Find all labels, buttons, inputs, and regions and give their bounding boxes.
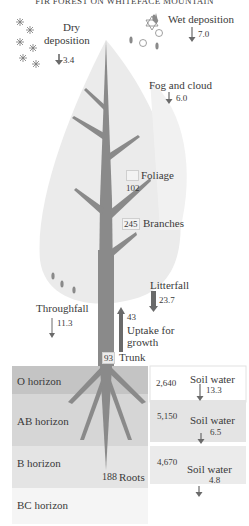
branches-label: Branches xyxy=(143,217,184,229)
o-horizon-label: O horizon xyxy=(17,375,61,387)
foliage-value: 102 xyxy=(126,183,140,193)
uptake-label-1: Uptake for xyxy=(127,324,174,336)
uptake-value: 43 xyxy=(127,312,136,322)
bc-horizon-label: BC horizon xyxy=(17,499,68,511)
wet-deposition-label: Wet deposition xyxy=(168,13,234,25)
dry-deposition-arrow-icon xyxy=(55,54,63,65)
o-horizon-water-label: Soil water xyxy=(190,373,235,385)
ab-horizon-water-label: Soil water xyxy=(190,414,235,426)
fog-cloud-label: Fog and cloud xyxy=(149,79,212,91)
dry-deposition-label-2: deposition xyxy=(44,34,90,46)
b-horizon-label: B horizon xyxy=(17,457,61,469)
trunk-value: 93 xyxy=(102,352,115,364)
ab-horizon-water-value: 6.5 xyxy=(210,427,221,437)
o-horizon-pool: 2,640 xyxy=(156,378,176,388)
b-horizon-pool: 4,670 xyxy=(157,457,177,467)
b-horizon-water-value: 4.8 xyxy=(209,475,220,485)
foliage-marker xyxy=(126,170,139,181)
foliage-label: Foliage xyxy=(141,169,174,181)
litterfall-label: Litterfall xyxy=(150,279,189,291)
trunk-label: Trunk xyxy=(119,351,146,363)
ab-horizon-label: AB horizon xyxy=(17,415,69,427)
roots-label: Roots xyxy=(119,471,145,483)
roots-value: 188 xyxy=(102,472,117,482)
ab-horizon-pool: 5,150 xyxy=(157,411,177,421)
dry-deposition-particles-icon xyxy=(16,18,40,68)
throughfall-value: 11.3 xyxy=(57,318,72,328)
o-horizon-water-value: 13.3 xyxy=(206,385,222,395)
diagram-title: FIR FOREST ON WHITEFACE MOUNTAIN xyxy=(0,0,249,6)
dry-deposition-value: 3.4 xyxy=(63,55,74,65)
branches-value: 245 xyxy=(122,218,140,230)
uptake-label-2: growth xyxy=(127,336,158,348)
dry-deposition-label-1: Dry xyxy=(63,21,80,33)
fog-cloud-value: 6.0 xyxy=(176,93,187,103)
wet-deposition-value: 7.0 xyxy=(198,29,209,39)
litterfall-value: 23.7 xyxy=(159,295,175,305)
b-horizon-water-label: Soil water xyxy=(187,463,232,475)
litterfall-arrow-icon xyxy=(149,291,158,312)
soil-water-b-arrow-icon xyxy=(196,486,203,497)
wet-deposition-arrow-icon xyxy=(189,27,196,42)
throughfall-label: Throughfall xyxy=(36,302,89,314)
wet-deposition-precip-icon xyxy=(129,13,162,50)
throughfall-arrow-icon xyxy=(49,318,55,338)
uptake-arrow-icon xyxy=(117,307,125,352)
